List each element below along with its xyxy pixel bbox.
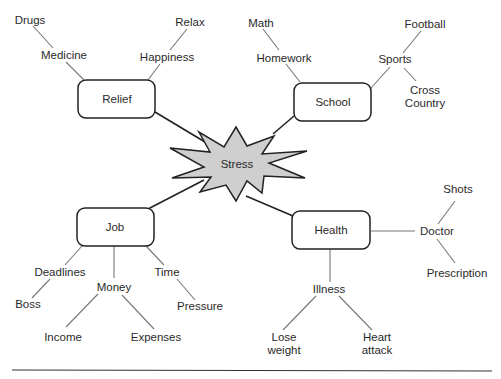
connector-relief-stress (155, 112, 205, 142)
label-illness: Illness (313, 283, 346, 295)
label-relax: Relax (175, 16, 205, 28)
connector-job-stress (148, 180, 204, 209)
label-deadlines: Deadlines (34, 266, 85, 278)
label-country: Country (405, 97, 446, 109)
label-income: Income (44, 331, 82, 343)
hub-label-relief: Relief (102, 93, 132, 105)
label-time: Time (154, 266, 179, 278)
connector-sports-crosscountry (404, 68, 416, 81)
connector-illness-loseweight (283, 296, 316, 330)
connector-homework-school (286, 64, 300, 82)
label-math: Math (248, 17, 274, 29)
connector-sports-school (371, 67, 390, 88)
connector-job-deadlines (65, 246, 82, 265)
label-lose: Lose (272, 331, 297, 343)
connector-health-stress (246, 196, 293, 216)
label-attack: attack (362, 344, 393, 356)
connector-relax-happiness (170, 29, 187, 50)
connector-math-homework (263, 29, 279, 50)
connector-job-time (146, 246, 164, 265)
bottom-rule (12, 370, 492, 371)
label-football: Football (405, 18, 446, 30)
label-medicine: Medicine (41, 49, 87, 61)
label-prescription: Prescription (427, 267, 488, 279)
label-pressure: Pressure (177, 300, 223, 312)
label-doctor: Doctor (420, 225, 454, 237)
center-node-stress: Stress (170, 127, 307, 201)
label-homework: Homework (257, 52, 312, 64)
label-heart: Heart (363, 331, 392, 343)
label-cross: Cross (410, 84, 440, 96)
hub-label-job: Job (106, 221, 125, 233)
connector-money-income (66, 294, 98, 327)
hub-node-school: School (294, 83, 371, 121)
stress-mind-map: Stress Relief School Job Health Drugs Me… (0, 0, 501, 379)
connector-illness-heartattack (339, 296, 372, 330)
center-label: Stress (221, 158, 254, 170)
connector-time-pressure (177, 279, 195, 300)
connector-doctor-prescription (437, 239, 455, 263)
connector-deadlines-boss (32, 279, 50, 298)
hub-node-job: Job (77, 208, 154, 246)
connector-money-expenses (122, 295, 154, 329)
connector-doctor-shots (438, 201, 455, 224)
label-boss: Boss (15, 298, 41, 310)
connector-football-sports (403, 31, 421, 53)
label-happiness: Happiness (140, 51, 195, 63)
label-shots: Shots (443, 183, 473, 195)
label-weight: weight (266, 344, 301, 356)
label-money: Money (97, 281, 132, 293)
hub-label-school: School (315, 96, 350, 108)
hub-node-relief: Relief (78, 80, 155, 118)
label-drugs: Drugs (15, 14, 46, 26)
connector-school-stress (273, 116, 294, 134)
hub-label-health: Health (314, 224, 347, 236)
label-expenses: Expenses (131, 331, 182, 343)
connector-drugs-medicine (33, 26, 53, 48)
hub-node-health: Health (292, 211, 370, 249)
label-sports: Sports (378, 53, 411, 65)
connector-medicine-relief (66, 62, 84, 80)
connector-happiness-relief (148, 64, 160, 80)
